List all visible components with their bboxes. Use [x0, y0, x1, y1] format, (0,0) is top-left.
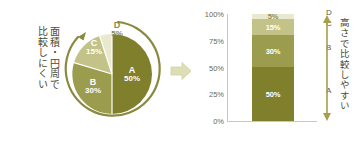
y-tick-25: 25%	[209, 90, 224, 99]
y-tick-100: 100%	[205, 10, 224, 19]
height-comparison-arrow	[322, 14, 332, 122]
pie-caption-line-2: 比較しにくい	[35, 26, 46, 89]
infographic-canvas: 面積・円周で 比較しにくい	[0, 0, 363, 142]
bar-caption: 高さで比較しやすい	[336, 18, 352, 122]
bar-segment-a: 50% A	[252, 67, 294, 121]
pie-caption: 面積・円周で 比較しにくい	[14, 26, 58, 118]
bar-chart-panel: 100% 75% 50% 25% 0% 5% D 15% C 30% B	[190, 0, 363, 142]
pie-chart-panel: 面積・円周で 比較しにくい	[0, 0, 172, 142]
bar-caption-text: 高さで比較しやすい	[339, 18, 349, 112]
pie-chart: A 50% B 30% C 15% D 5%	[56, 12, 168, 130]
y-tick-50: 50%	[209, 63, 224, 72]
bar-segment-a-value: 50%	[266, 90, 280, 99]
transition-arrow	[170, 61, 192, 81]
pie-chart-svg	[56, 12, 168, 130]
bar-segment-c: 15% C	[252, 19, 294, 35]
bar-segment-c-value: 15%	[266, 23, 280, 32]
bar-chart-plot-area: 100% 75% 50% 25% 0% 5% D 15% C 30% B	[227, 14, 317, 122]
double-headed-vertical-arrow-icon	[322, 14, 332, 122]
y-tick-0: 0%	[213, 117, 224, 126]
stacked-bar: 5% D 15% C 30% B 50% A	[252, 14, 294, 121]
bar-segment-b: 30% B	[252, 35, 294, 67]
bar-segment-b-value: 30%	[266, 47, 280, 56]
right-arrow-icon	[170, 61, 192, 81]
y-tick-75: 75%	[209, 36, 224, 45]
